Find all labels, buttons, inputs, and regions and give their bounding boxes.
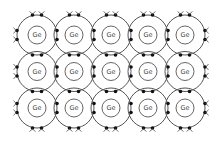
electron: [166, 102, 170, 106]
bond-stub: [206, 37, 209, 43]
bond-stub: [39, 129, 45, 132]
bond-stub: [14, 28, 17, 34]
bond-stub: [14, 64, 17, 70]
electron: [92, 102, 96, 106]
electron: [151, 90, 155, 94]
electron: [31, 90, 35, 94]
ge-atom: Ge: [165, 15, 205, 55]
electron: [92, 74, 96, 78]
ge-atom: Ge: [54, 52, 94, 92]
electron: [179, 53, 183, 57]
bond-stub: [206, 28, 209, 34]
ge-atom: Ge: [128, 88, 168, 128]
bond-stub: [67, 129, 73, 132]
bond-stub: [113, 12, 119, 15]
bond-stub: [206, 73, 209, 79]
ge-atom: Ge: [91, 15, 131, 55]
atom-label: Ge: [69, 68, 78, 76]
bond-stub: [14, 73, 17, 79]
bond-stub: [150, 12, 156, 15]
atom-label: Ge: [69, 31, 78, 39]
bond-stub: [76, 12, 82, 15]
electron: [55, 38, 59, 42]
ge-atom: Ge: [128, 52, 168, 92]
electron: [166, 38, 170, 42]
atom-label: Ge: [180, 31, 189, 39]
bond-stub: [14, 101, 17, 107]
bond-stub: [14, 37, 17, 43]
ge-atom: Ge: [17, 52, 57, 92]
electron: [77, 90, 81, 94]
electron: [188, 90, 192, 94]
electron: [129, 65, 133, 69]
electron: [129, 38, 133, 42]
lattice-svg: GeGeGeGeGeGeGeGeGeGeGeGeGeGeGe: [0, 0, 223, 145]
atom-label: Ge: [106, 68, 115, 76]
electron: [68, 90, 72, 94]
bond-stub: [206, 101, 209, 107]
electron: [129, 74, 133, 78]
ge-atom: Ge: [54, 88, 94, 128]
atom-label: Ge: [69, 104, 78, 112]
bond-stub: [187, 12, 193, 15]
electron: [142, 90, 146, 94]
bond-stub: [39, 12, 45, 15]
electron: [179, 90, 183, 94]
atom-label: Ge: [32, 68, 41, 76]
ge-atom: Ge: [17, 15, 57, 55]
bond-stub: [187, 129, 193, 132]
germanium-lattice-diagram: GeGeGeGeGeGeGeGeGeGeGeGeGeGeGe: [0, 0, 223, 145]
electron: [92, 29, 96, 33]
electron: [129, 111, 133, 115]
electron: [92, 65, 96, 69]
electron: [166, 74, 170, 78]
electron: [129, 29, 133, 33]
bond-stub: [206, 64, 209, 70]
electron: [129, 102, 133, 106]
atom-label: Ge: [143, 31, 152, 39]
atom-label: Ge: [180, 68, 189, 76]
atom-label: Ge: [143, 68, 152, 76]
bond-stub: [206, 110, 209, 116]
electron: [77, 53, 81, 57]
ge-atom: Ge: [165, 88, 205, 128]
ge-atom: Ge: [91, 52, 131, 92]
ge-atom: Ge: [128, 15, 168, 55]
bond-stub: [141, 12, 147, 15]
bond-stub: [113, 129, 119, 132]
ge-atom: Ge: [165, 52, 205, 92]
bond-stub: [104, 12, 110, 15]
atom-label: Ge: [180, 104, 189, 112]
electron: [142, 53, 146, 57]
atom-label: Ge: [143, 104, 152, 112]
ge-atom: Ge: [17, 88, 57, 128]
electron: [166, 29, 170, 33]
electron: [55, 65, 59, 69]
electron: [166, 65, 170, 69]
electron: [55, 29, 59, 33]
electron: [40, 53, 44, 57]
bond-stub: [67, 12, 73, 15]
electron: [55, 102, 59, 106]
bond-stub: [178, 129, 184, 132]
electron: [92, 111, 96, 115]
electron: [55, 111, 59, 115]
bond-stub: [76, 129, 82, 132]
atom-label: Ge: [32, 31, 41, 39]
electron: [188, 53, 192, 57]
electron: [55, 74, 59, 78]
atom-label: Ge: [106, 104, 115, 112]
bond-stub: [150, 129, 156, 132]
electron: [151, 53, 155, 57]
electron: [68, 53, 72, 57]
bond-stub: [141, 129, 147, 132]
bond-stub: [30, 129, 36, 132]
electron: [114, 90, 118, 94]
electron: [31, 53, 35, 57]
electron: [114, 53, 118, 57]
bond-stub: [104, 129, 110, 132]
electron: [105, 90, 109, 94]
electron: [92, 38, 96, 42]
atom-label: Ge: [106, 31, 115, 39]
atom-label: Ge: [32, 104, 41, 112]
